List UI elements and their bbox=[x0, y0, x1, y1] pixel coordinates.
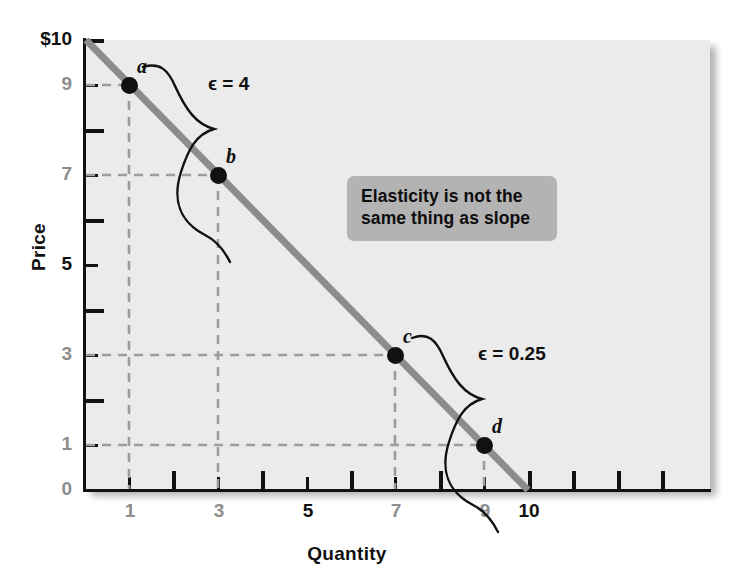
guide-lines-point-b bbox=[86, 175, 218, 489]
guide-lines-point-d bbox=[86, 445, 484, 489]
chart-vector-layer bbox=[0, 0, 745, 584]
data-point-label-c: c bbox=[403, 325, 412, 348]
elasticity-label-cd: ϵ = 0.25 bbox=[478, 343, 546, 365]
data-point-c[interactable] bbox=[387, 347, 404, 364]
data-point-label-a: a bbox=[137, 55, 147, 78]
callout-line-2: same thing as slope bbox=[361, 207, 545, 229]
callout-line-1: Elasticity is not the bbox=[361, 185, 545, 207]
data-point-label-d: d bbox=[492, 415, 502, 438]
data-point-a[interactable] bbox=[121, 77, 138, 94]
demand-curve bbox=[86, 40, 528, 490]
callout-box: Elasticity is not the same thing as slop… bbox=[347, 176, 557, 241]
data-point-d[interactable] bbox=[476, 437, 493, 454]
data-point-b[interactable] bbox=[210, 167, 227, 184]
chart-figure: $10 9 7 5 3 1 0 1 3 5 7 9 10 Price Quant… bbox=[0, 0, 745, 584]
data-point-label-b: b bbox=[226, 145, 236, 168]
brace-cd bbox=[412, 336, 498, 532]
elasticity-label-ab: ϵ = 4 bbox=[208, 73, 249, 95]
guide-lines-point-a bbox=[86, 85, 129, 489]
guide-lines-point-c bbox=[86, 355, 395, 489]
